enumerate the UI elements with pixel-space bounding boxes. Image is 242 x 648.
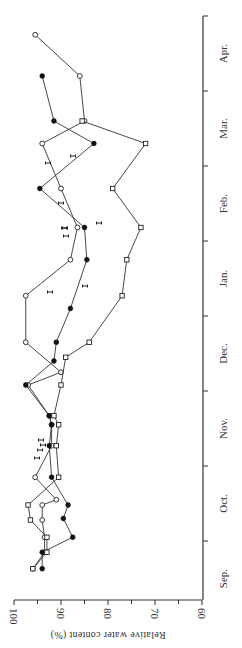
axes — [14, 16, 208, 605]
data-point-filled-circle — [54, 340, 59, 345]
data-point-open-square — [64, 355, 68, 359]
data-point-open-circle — [33, 32, 38, 37]
data-point-open-circle — [40, 518, 45, 523]
series-line — [26, 35, 85, 569]
data-point-open-square — [45, 550, 49, 554]
data-point-open-square — [59, 383, 63, 387]
data-point-filled-circle — [84, 257, 89, 262]
data-point-open-square — [120, 294, 124, 298]
data-point-filled-circle — [47, 413, 52, 418]
data-point-filled-circle — [40, 566, 45, 571]
data-point-open-circle — [59, 186, 64, 191]
data-point-filled-circle — [37, 186, 42, 191]
month-label: Oct. — [217, 494, 229, 513]
data-point-open-square — [31, 567, 35, 571]
data-point-filled-circle — [61, 516, 66, 521]
data-point-open-square — [139, 225, 143, 229]
data-point-open-square — [45, 535, 49, 539]
series-line — [26, 76, 94, 569]
data-point-open-circle — [40, 503, 45, 508]
month-label: Apr. — [217, 44, 229, 64]
data-point-open-square — [56, 423, 60, 427]
data-point-open-circle — [40, 141, 45, 146]
rwc-tick-label: 90 — [55, 608, 67, 620]
data-point-open-square — [52, 414, 56, 418]
data-point-filled-circle — [82, 225, 87, 230]
data-point-filled-circle — [70, 535, 75, 540]
data-point-open-circle — [75, 225, 80, 230]
month-label: Dec. — [217, 343, 229, 364]
data-point-open-square — [125, 258, 129, 262]
data-point-filled-circle — [68, 306, 73, 311]
data-point-open-square — [87, 340, 91, 344]
rwc-axis-title: Relative water content (%) — [50, 629, 165, 641]
data-point-open-circle — [77, 74, 82, 79]
data-point-filled-circle — [40, 550, 45, 555]
month-label: Feb. — [217, 194, 229, 214]
chart: 10090807060Relative water content (%)Sep… — [0, 0, 242, 648]
data-point-filled-circle — [47, 443, 52, 448]
data-point-filled-circle — [23, 383, 28, 388]
data-point-open-circle — [68, 257, 73, 262]
data-point-open-circle — [23, 293, 28, 298]
data-point-open-square — [56, 475, 60, 479]
series-layer — [23, 32, 147, 571]
rwc-tick-label: 100 — [8, 608, 20, 625]
rwc-tick-label: 60 — [196, 608, 208, 620]
rwc-tick-label: 70 — [149, 608, 161, 620]
month-label: Sep. — [217, 569, 229, 589]
data-point-filled-circle — [49, 422, 54, 427]
data-point-open-circle — [54, 497, 59, 502]
data-point-filled-circle — [40, 74, 45, 79]
data-point-filled-circle — [49, 475, 54, 480]
data-point-open-square — [26, 503, 30, 507]
rwc-tick-label: 80 — [102, 608, 114, 620]
data-point-open-circle — [33, 475, 38, 480]
error-bars — [35, 155, 102, 460]
data-point-open-square — [111, 186, 115, 190]
data-point-filled-circle — [92, 141, 97, 146]
data-point-filled-circle — [52, 119, 57, 124]
data-point-filled-circle — [52, 359, 57, 364]
data-point-filled-circle — [66, 503, 71, 508]
month-label: Nov. — [217, 418, 229, 439]
data-point-open-square — [143, 141, 147, 145]
month-label: Jan. — [217, 270, 229, 288]
data-point-open-square — [80, 119, 84, 123]
data-point-open-square — [54, 444, 58, 448]
data-point-open-square — [28, 518, 32, 522]
data-point-open-circle — [23, 340, 28, 345]
month-label: Mar. — [217, 118, 229, 139]
